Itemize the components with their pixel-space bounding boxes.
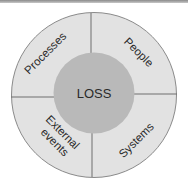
center-label: LOSS <box>77 86 112 101</box>
loss-diagram: LOSS Processes People External events Sy… <box>0 0 188 191</box>
